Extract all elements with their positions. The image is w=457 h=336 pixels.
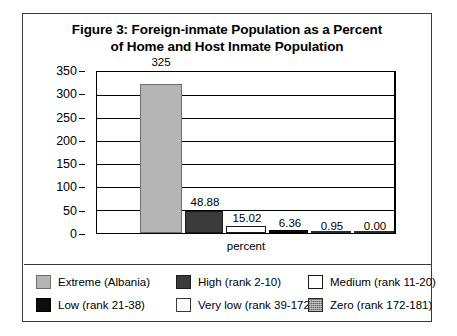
bar-high[interactable] xyxy=(185,211,223,233)
figure-title-line-2: of Home and Host Inmate Population xyxy=(23,38,431,55)
legend-item-zero[interactable]: Zero (rank 172-181) xyxy=(308,295,432,314)
legend-label-high: High (rank 2-10) xyxy=(198,276,281,288)
bar-value-extreme: 325 xyxy=(137,56,185,68)
y-tickmark xyxy=(79,187,85,188)
y-tickmark xyxy=(79,118,85,119)
y-tickmark xyxy=(79,71,85,72)
y-tickmark xyxy=(79,211,85,212)
bar-value-high: 48.88 xyxy=(181,196,229,208)
legend-item-medium[interactable]: Medium (rank 11-20) xyxy=(308,272,436,291)
chart-legend: Extreme (Albania) High (rank 2-10) Mediu… xyxy=(24,264,432,321)
bar-extreme[interactable] xyxy=(140,84,182,233)
legend-swatch-icon-very-low xyxy=(176,298,191,312)
legend-label-extreme: Extreme (Albania) xyxy=(58,276,150,288)
y-tickmark xyxy=(79,164,85,165)
legend-swatch-icon-zero xyxy=(308,298,323,312)
y-axis-tick-300: 300 xyxy=(33,87,77,101)
bar-value-zero: 0.00 xyxy=(351,220,399,232)
legend-item-high[interactable]: High (rank 2-10) xyxy=(176,272,281,291)
y-axis-tick-0: 0 xyxy=(33,227,77,241)
y-axis-tick-100: 100 xyxy=(33,180,77,194)
y-axis-tick-350: 350 xyxy=(33,64,77,78)
figure-title-line-1: Figure 3: Foreign-inmate Population as a… xyxy=(23,21,431,38)
legend-label-zero: Zero (rank 172-181) xyxy=(330,299,432,311)
plot-area: 325 48.88 15.02 6.36 0.95 0.00 xyxy=(96,71,396,234)
y-axis-tick-150: 150 xyxy=(33,157,77,171)
legend-swatch-icon-medium xyxy=(308,275,323,289)
y-tickmark xyxy=(79,94,85,95)
bar-value-very-low: 0.95 xyxy=(308,220,356,232)
y-axis-tick-250: 250 xyxy=(33,111,77,125)
legend-label-very-low: Very low (rank 39-172) xyxy=(198,299,314,311)
y-axis: 350 300 250 200 150 100 50 0 xyxy=(33,71,85,234)
legend-item-low[interactable]: Low (rank 21-38) xyxy=(36,295,145,314)
legend-item-very-low[interactable]: Very low (rank 39-172) xyxy=(176,295,314,314)
y-tickmark xyxy=(79,141,85,142)
y-axis-tick-200: 200 xyxy=(33,134,77,148)
legend-swatch-icon-high xyxy=(176,275,191,289)
legend-item-extreme[interactable]: Extreme (Albania) xyxy=(36,272,150,291)
legend-label-medium: Medium (rank 11-20) xyxy=(330,276,436,288)
y-tickmark xyxy=(79,234,85,235)
legend-swatch-icon-low xyxy=(36,298,51,312)
x-axis-label: percent xyxy=(96,240,396,252)
legend-row-1: Extreme (Albania) High (rank 2-10) Mediu… xyxy=(24,272,432,295)
figure-container: Figure 3: Foreign-inmate Population as a… xyxy=(22,13,432,322)
y-axis-tick-50: 50 xyxy=(33,204,77,218)
chart-plot: 350 300 250 200 150 100 50 0 xyxy=(23,60,433,260)
bar-value-low: 6.36 xyxy=(266,217,314,229)
legend-swatch-icon-extreme xyxy=(36,275,51,289)
bar-low[interactable] xyxy=(269,230,308,233)
figure-title: Figure 3: Foreign-inmate Population as a… xyxy=(23,21,431,55)
bar-value-medium: 15.02 xyxy=(223,212,271,224)
bar-medium[interactable] xyxy=(226,226,266,233)
legend-label-low: Low (rank 21-38) xyxy=(58,299,145,311)
bar-series xyxy=(97,72,394,233)
legend-row-2: Low (rank 21-38) Very low (rank 39-172) … xyxy=(24,295,432,318)
